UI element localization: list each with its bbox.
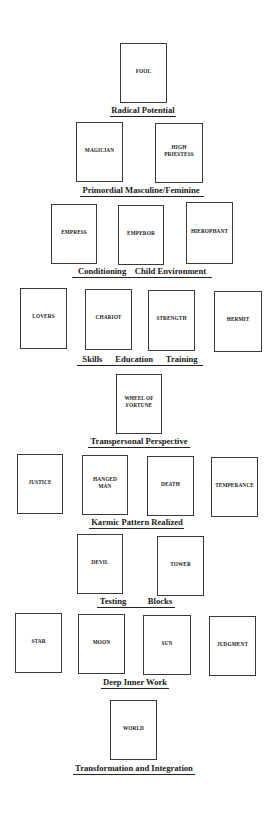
card-name: HIGH PRIESTESS [164, 144, 193, 158]
card-name: STAR [31, 638, 45, 645]
card-name: DEVIL [91, 559, 108, 566]
tarot-card-high-priestess: HIGH PRIESTESS [155, 123, 203, 183]
tarot-card-devil: DEVIL [77, 534, 123, 594]
tarot-card-lovers: LOVERS [20, 288, 67, 349]
card-name: JUDGMENT [217, 641, 248, 648]
tarot-card-star: STAR [15, 613, 62, 673]
stage-label: Radical Potential [111, 105, 174, 115]
card-name: JUSTICE [28, 479, 51, 486]
stage-label: Deep Inner Work [103, 677, 167, 687]
card-name: TOWER [170, 561, 191, 568]
tarot-card-empress: EMPRESS [51, 204, 97, 264]
card-name: EMPRESS [61, 229, 87, 236]
tarot-card-chariot: CHARIOT [85, 289, 132, 350]
card-name: STRENGTH [156, 315, 186, 322]
stage-label-underline [101, 688, 169, 689]
tarot-card-world: WORLD [110, 700, 157, 760]
stage-label: Transformation and Integration [75, 763, 193, 773]
card-name: WORLD [123, 725, 144, 732]
stage-label-underline [110, 116, 176, 117]
tarot-card-judgment: JUDGMENT [209, 616, 256, 676]
card-name: LOVERS [32, 313, 54, 320]
card-name: FOOL [136, 68, 151, 75]
tarot-card-sun: SUN [143, 615, 191, 675]
tarot-card-temperance: TEMPERANCE [211, 457, 258, 517]
stage-label: Skills Education Training [82, 354, 197, 364]
tarot-card-emperor: EMPEROR [118, 205, 164, 265]
stage-label: Primordial Masculine/Feminine [82, 185, 199, 195]
card-name: MOON [93, 639, 110, 646]
card-name: TEMPERANCE [215, 482, 254, 489]
stage-label-underline [97, 607, 175, 608]
tarot-card-death: DEATH [147, 456, 194, 516]
stage-label: Karmic Pattern Realized [91, 517, 183, 527]
tarot-card-wheel-of-fortune: WHEEL OF FORTUNE [116, 374, 162, 434]
tarot-card-fool: FOOL [120, 43, 167, 103]
tarot-card-justice: JUSTICE [17, 454, 63, 514]
tarot-card-hermit: HERMIT [214, 291, 262, 352]
tarot-card-hanged-man: HANGED MAN [82, 455, 128, 515]
card-name: MAGICIAN [85, 147, 114, 154]
card-name: HIEROPHANT [191, 228, 228, 235]
stage-label: Testing Blocks [100, 596, 172, 606]
stage-label-underline [72, 277, 212, 278]
stage-label-underline [89, 528, 184, 529]
card-name: WHEEL OF FORTUNE [124, 395, 153, 409]
stage-label-underline [88, 447, 190, 448]
stage-label-underline [73, 774, 195, 775]
tarot-card-moon: MOON [78, 614, 125, 674]
stage-label: Transpersonal Perspective [91, 436, 188, 446]
stage-label-underline [80, 196, 204, 197]
card-name: EMPEROR [127, 230, 155, 237]
tarot-card-strength: STRENGTH [148, 290, 195, 351]
tarot-card-tower: TOWER [157, 536, 204, 596]
stage-label-underline [77, 365, 203, 366]
card-name: HANGED MAN [93, 476, 117, 490]
tarot-card-hierophant: HIEROPHANT [186, 202, 233, 264]
stage-label: Conditioning Child Environment [78, 266, 206, 276]
tarot-card-magician: MAGICIAN [76, 122, 123, 182]
card-name: HERMIT [227, 316, 250, 323]
card-name: SUN [162, 640, 173, 647]
card-name: DEATH [161, 481, 180, 488]
card-name: CHARIOT [95, 314, 121, 321]
